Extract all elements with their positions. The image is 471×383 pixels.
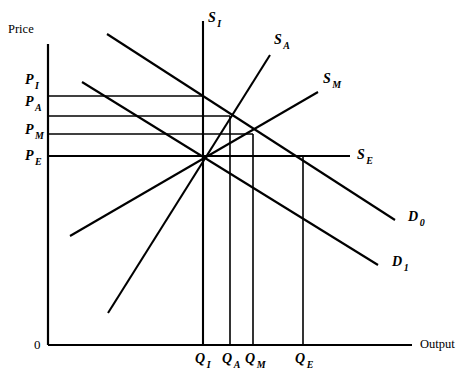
price-label-PA-base: P [25,94,34,109]
supply-label-SI-base: S [208,10,216,25]
quantity-label-QM-base: Q [245,351,255,366]
quantity-label-QE-base: Q [295,351,305,366]
demand-label-D0: D0 [408,209,423,225]
origin-label: 0 [34,337,41,353]
supply-label-SE: SE [357,147,371,163]
demand-label-D0-sub: 0 [420,217,425,228]
supply-label-SA-sub: A [283,40,290,51]
price-label-PA: PA [25,94,40,110]
demand-label-D1-base: D [392,254,402,269]
quantity-label-QI: QI [195,351,209,367]
supply-label-SM-sub: M [332,79,341,90]
price-label-PI: PI [25,72,37,88]
quantity-label-QM-sub: M [257,359,266,370]
quantity-label-QE-sub: E [307,359,314,370]
quantity-label-QM: QM [245,351,264,367]
supply-label-SM-base: S [323,71,331,86]
price-label-PM-base: P [25,122,34,137]
quantity-label-QA-base: Q [222,351,232,366]
price-label-PA-sub: A [35,102,42,113]
supply-label-SE-base: S [357,147,365,162]
supply-label-SA: SA [274,32,288,48]
supply-label-SI-sub: I [217,18,221,29]
supply-label-SI: SI [208,10,220,26]
supply-curve-SM [70,92,318,236]
price-label-PE: PE [25,148,40,164]
quantity-label-QI-base: Q [195,351,205,366]
quantity-label-QA: QA [222,351,239,367]
price-label-PE-sub: E [35,156,42,167]
supply-demand-figure: Price Output 0 PI PA PM PE QI QA QM QE S… [0,0,471,383]
supply-label-SM: SM [323,71,340,87]
quantity-label-QE: QE [295,351,312,367]
demand-label-D1: D1 [392,254,407,270]
price-label-PM: PM [25,122,42,138]
demand-label-D0-base: D [408,209,418,224]
demand-label-D1-sub: 1 [404,262,409,273]
price-label-PI-sub: I [35,80,39,91]
x-axis-label: Output [420,337,455,352]
price-label-PM-sub: M [35,130,44,141]
demand-curve-D0 [107,34,395,220]
supply-label-SE-sub: E [366,155,373,166]
quantity-label-QA-sub: A [234,359,241,370]
figure-canvas [0,0,471,383]
price-label-PI-base: P [25,72,34,87]
price-label-PE-base: P [25,148,34,163]
quantity-label-QI-sub: I [207,359,211,370]
y-axis-label: Price [8,22,34,37]
supply-label-SA-base: S [274,32,282,47]
